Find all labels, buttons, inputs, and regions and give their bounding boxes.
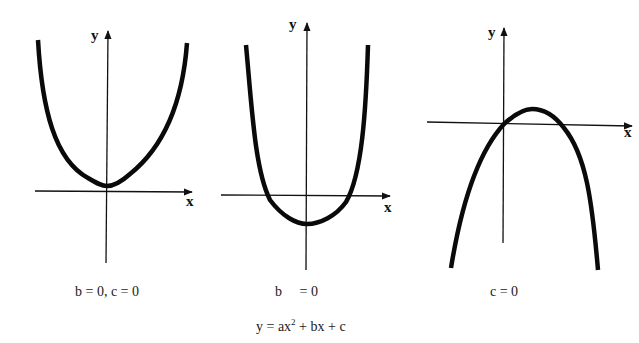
- formula-prefix: y = ax: [256, 319, 291, 334]
- panel-3-y-axis: [503, 28, 504, 243]
- panel-3-graph: [427, 28, 632, 270]
- panel-1-caption: b = 0, c = 0: [75, 284, 139, 300]
- panel-1-x-label: x: [186, 193, 194, 210]
- panel-1-y-label: y: [91, 27, 99, 44]
- panel-1-curve: [38, 40, 187, 186]
- panel-3-x-axis: [427, 122, 632, 126]
- formula-suffix: + bx + c: [296, 319, 346, 334]
- general-formula: y = ax2 + bx + c: [256, 317, 346, 335]
- panel-3-x-label: x: [624, 124, 632, 141]
- panel-2-x-label: x: [384, 199, 392, 216]
- panel-3-caption: c = 0: [490, 284, 518, 300]
- panel-2-graph: [221, 23, 390, 270]
- panel-2-caption: b = 0: [275, 284, 318, 300]
- panel-2-y-axis: [306, 23, 307, 270]
- panel-1-y-axis: [106, 31, 108, 263]
- panel-3-y-label: y: [488, 24, 496, 41]
- panel-2-x-axis: [221, 195, 390, 196]
- panel-1-graph: [35, 31, 192, 263]
- panel-1-x-axis: [35, 191, 192, 192]
- panel-3-curve: [451, 109, 598, 270]
- panel-2-y-label: y: [289, 16, 297, 33]
